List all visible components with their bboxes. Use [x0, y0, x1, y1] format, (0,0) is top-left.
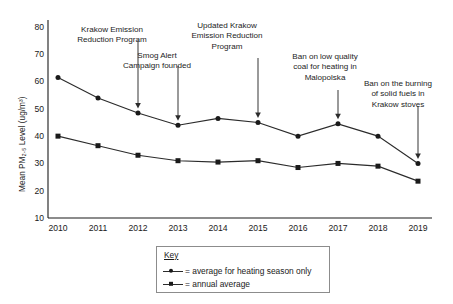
legend-square-marker-icon	[163, 279, 183, 288]
annotation-arrow-head-icon	[415, 153, 421, 159]
data-point-square	[136, 153, 141, 158]
series-annual-average-line	[58, 136, 418, 181]
data-point-square	[96, 143, 101, 148]
data-point-square	[56, 134, 61, 139]
chart-root: Mean PM₂.₅ Level (ug/m³) 80 70 60 50 40 …	[0, 0, 453, 304]
legend-title: Key	[164, 250, 178, 260]
series-annual-average-markers	[56, 134, 421, 184]
data-point-circle	[56, 75, 61, 80]
data-point-circle	[96, 95, 101, 100]
data-point-circle	[296, 134, 301, 139]
data-point-circle	[136, 110, 141, 115]
annotation-arrows	[135, 40, 421, 159]
legend-label: = average for heating season only	[183, 266, 311, 276]
legend-circle-marker-icon	[163, 266, 183, 275]
data-point-square	[216, 160, 221, 165]
axis-lines	[48, 20, 432, 218]
annotation-arrow-head-icon	[175, 115, 181, 121]
data-point-square	[176, 158, 181, 163]
legend: Key = average for heating season only = …	[156, 246, 330, 293]
series-heating-season-line	[58, 77, 418, 163]
data-point-circle	[416, 161, 421, 166]
legend-row-heating-season: = average for heating season only	[163, 265, 311, 276]
annotation-arrow-head-icon	[255, 113, 261, 119]
data-point-circle	[216, 116, 221, 121]
data-point-circle	[176, 123, 181, 128]
annotation-arrow-head-icon	[335, 114, 341, 120]
data-point-square	[416, 179, 421, 184]
data-point-square	[296, 165, 301, 170]
annotation-arrow-head-icon	[135, 103, 141, 109]
data-point-circle	[336, 121, 341, 126]
data-point-circle	[256, 120, 261, 125]
data-point-square	[376, 164, 381, 169]
legend-label: = annual average	[183, 279, 250, 289]
legend-row-annual-average: = annual average	[163, 278, 250, 289]
data-point-circle	[376, 134, 381, 139]
data-point-square	[336, 161, 341, 166]
data-point-square	[256, 158, 261, 163]
